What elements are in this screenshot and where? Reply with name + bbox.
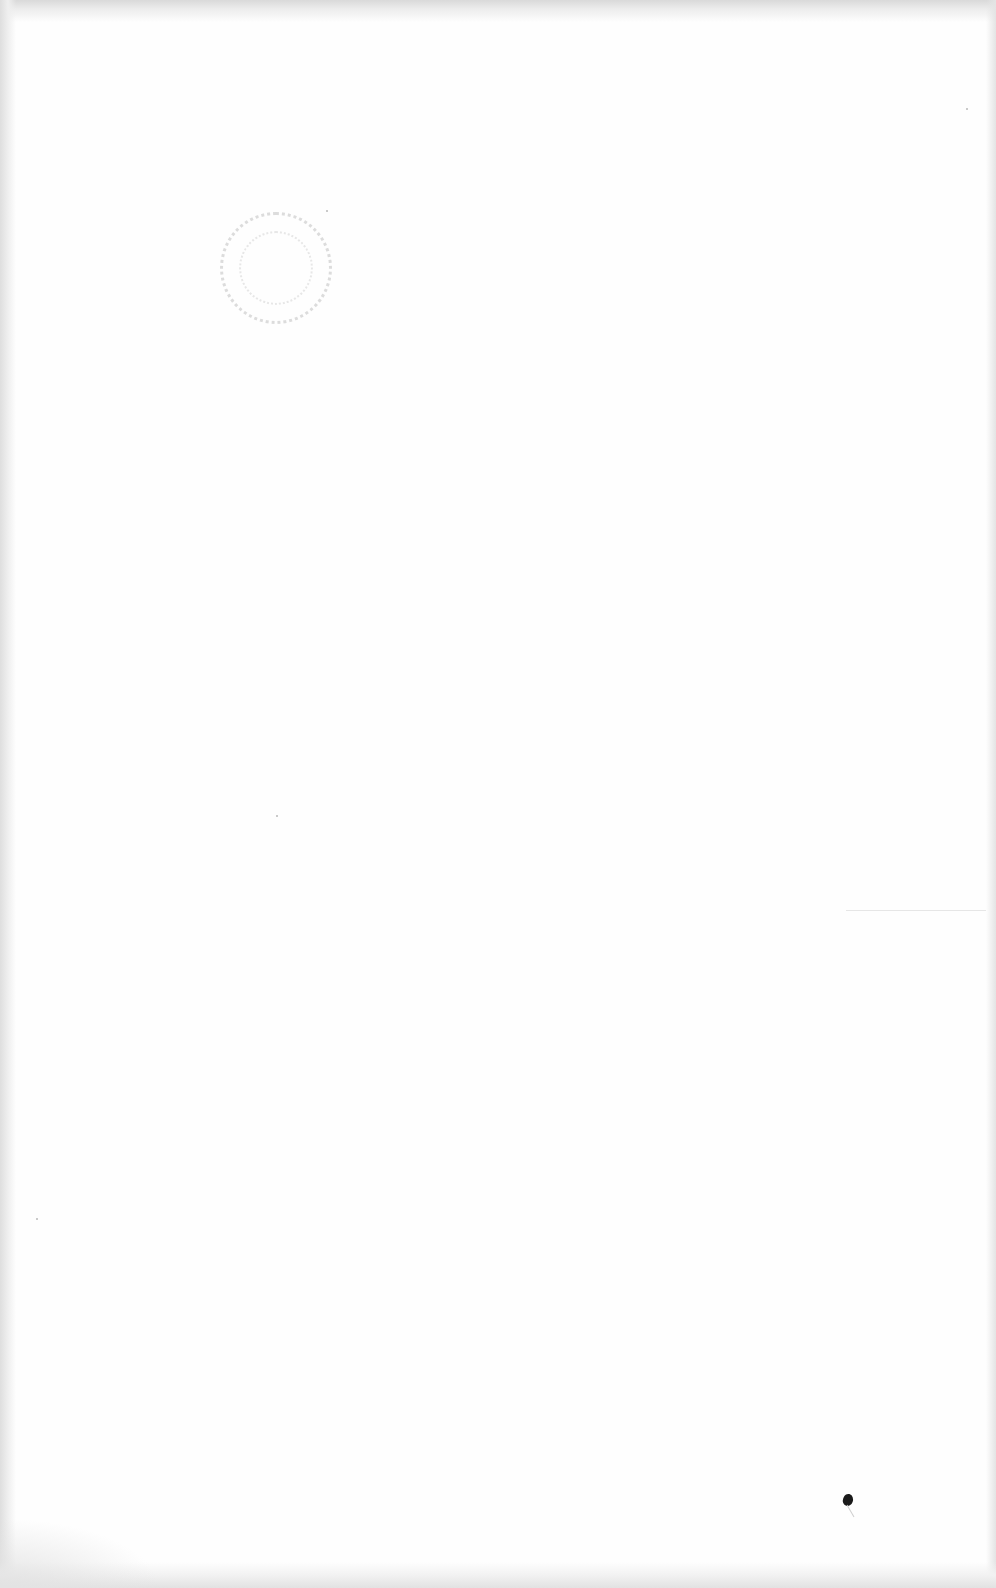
stamp-inner-ring — [239, 231, 313, 305]
dust-dot — [36, 1218, 38, 1220]
faint-circular-stamp — [220, 212, 332, 324]
dust-dot — [276, 815, 278, 817]
scan-edge-shadow-top — [0, 0, 996, 22]
scan-edge-shadow-right — [986, 0, 996, 1588]
blank-scanned-page — [0, 0, 996, 1588]
dust-dot — [326, 210, 328, 212]
scan-edge-shadow-left — [0, 0, 16, 1588]
dust-dot — [966, 108, 968, 110]
scan-corner-shadow — [0, 1518, 160, 1588]
faint-horizontal-line — [846, 910, 986, 911]
ink-speck-tail — [847, 1505, 855, 1518]
